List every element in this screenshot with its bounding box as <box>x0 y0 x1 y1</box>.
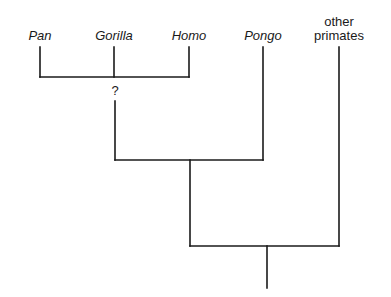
uncertain-node-question-mark: ? <box>105 84 125 98</box>
taxon-label-homo: Homo <box>164 29 214 43</box>
taxon-label-pan: Pan <box>20 29 60 43</box>
taxon-label-gorilla: Gorilla <box>84 29 144 43</box>
cladogram-lines <box>0 0 391 297</box>
taxon-label-other-line1: other <box>304 15 374 29</box>
taxon-label-pongo: Pongo <box>236 29 290 43</box>
taxon-label-other-line2: primates <box>304 29 374 43</box>
